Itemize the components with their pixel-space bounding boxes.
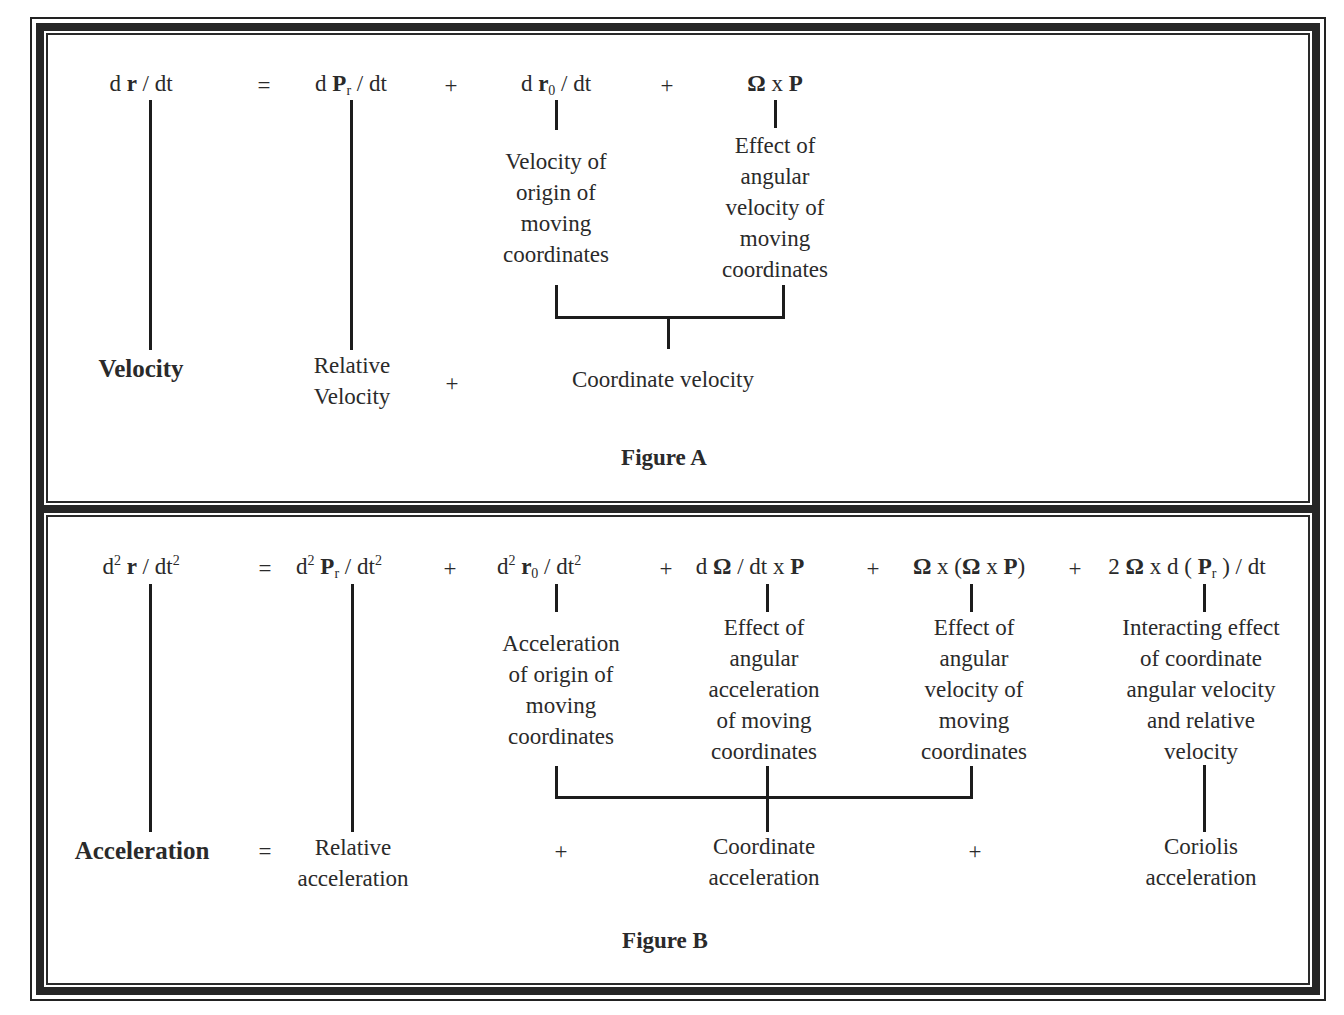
fig-b-caption: Figure B	[622, 929, 708, 952]
fig-b-coriolis-line	[1203, 765, 1206, 832]
fig-b-term4-desc: Effect of angular velocity of moving coo…	[921, 612, 1027, 767]
figure-a-panel	[46, 33, 1310, 503]
fig-a-equals: =	[258, 74, 271, 97]
fig-b-term2-desc: Acceleration of origin of moving coordin…	[502, 628, 619, 752]
fig-b-plus1: +	[444, 557, 457, 580]
fig-b-term4: Ω x (Ω x P)	[913, 555, 1025, 578]
fig-a-bracket-bar	[555, 316, 785, 319]
fig-b-term1-line	[351, 584, 354, 832]
fig-a-term1-line	[350, 100, 353, 350]
fig-b-equals: =	[259, 557, 272, 580]
fig-a-term3-desc: Effect of angular velocity of moving coo…	[722, 130, 828, 285]
fig-b-term4-line	[970, 584, 973, 612]
fig-b-term2: d2 r0 / dt2	[497, 555, 581, 578]
fig-b-relative-acceleration-label: Relative acceleration	[297, 832, 408, 894]
fig-a-bracket-stem	[667, 316, 670, 349]
fig-a-caption: Figure A	[621, 446, 707, 469]
fig-b-term1: d2 Pr / dt2	[296, 555, 382, 578]
fig-b-coriolis-label: Coriolis acceleration	[1145, 831, 1256, 893]
fig-b-plus4: +	[1069, 557, 1082, 580]
fig-a-relative-velocity-label: Relative Velocity	[314, 350, 391, 412]
fig-b-term3-desc: Effect of angular acceleration of moving…	[708, 612, 819, 767]
fig-a-velocity-label: Velocity	[98, 356, 183, 381]
fig-a-term2-line	[555, 100, 558, 130]
fig-a-bracket-right	[782, 285, 785, 319]
fig-a-lhs-line	[149, 100, 152, 350]
fig-b-term3: d Ω / dt x P	[696, 555, 805, 578]
fig-b-plus2: +	[660, 557, 673, 580]
fig-b-bracket-left	[555, 766, 558, 799]
fig-b-lhs-line	[149, 584, 152, 832]
fig-b-bracket-center	[766, 766, 769, 832]
fig-b-term3-line	[766, 584, 769, 612]
fig-b-summary-plus2: +	[969, 840, 982, 863]
fig-a-term1: d Pr / dt	[315, 72, 387, 95]
frame-band-divider	[36, 505, 1320, 513]
fig-a-lhs: d r / dt	[109, 72, 172, 95]
fig-b-bracket-right	[970, 766, 973, 799]
fig-b-bracket-bar	[555, 796, 973, 799]
fig-a-term2: d r0 / dt	[521, 72, 591, 95]
fig-a-summary-plus: +	[446, 372, 459, 395]
fig-a-plus1: +	[445, 74, 458, 97]
fig-b-term2-line	[555, 584, 558, 612]
fig-b-acceleration-label: Acceleration	[75, 838, 210, 863]
fig-b-summary-equals: =	[259, 840, 272, 863]
fig-b-summary-plus1: +	[555, 840, 568, 863]
fig-b-plus3: +	[867, 557, 880, 580]
fig-a-term2-desc: Velocity of origin of moving coordinates	[503, 146, 609, 270]
fig-b-coordinate-acceleration-label: Coordinate acceleration	[708, 831, 819, 893]
frame-band-top	[36, 23, 1320, 31]
figure-b-panel	[46, 515, 1310, 985]
fig-b-term5-desc: Interacting effect of coordinate angular…	[1122, 612, 1279, 767]
fig-a-term3-line	[774, 100, 777, 128]
fig-a-plus2: +	[661, 74, 674, 97]
fig-a-term3: Ω x P	[747, 72, 802, 95]
fig-a-bracket-left	[555, 285, 558, 319]
fig-a-coordinate-velocity-label: Coordinate velocity	[572, 368, 754, 391]
fig-b-lhs: d2 r / dt2	[102, 555, 179, 578]
frame-band-bottom	[36, 987, 1320, 995]
fig-b-term5-line	[1203, 584, 1206, 612]
fig-b-term5: 2 Ω x d ( Pr ) / dt	[1108, 555, 1265, 578]
